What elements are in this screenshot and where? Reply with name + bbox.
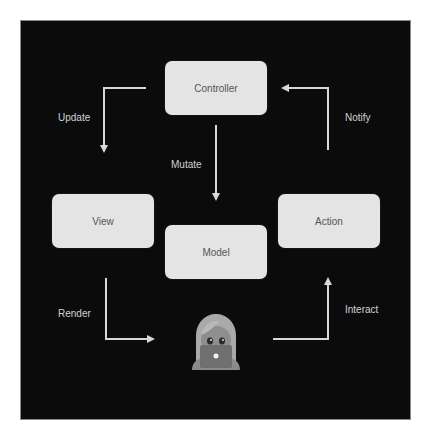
render-arrow [106,278,152,339]
model-node: Model [165,225,267,279]
action-node: Action [278,194,380,248]
update-label: Update [58,113,90,123]
notify-label: Notify [345,113,371,123]
notify-arrow [284,88,328,150]
woman-with-laptop-icon [190,312,242,370]
interact-arrow [273,280,328,339]
render-label: Render [58,309,91,319]
interact-label: Interact [345,305,378,315]
view-node: View [52,194,154,248]
controller-node: Controller [165,61,267,115]
mutate-label: Mutate [171,160,202,170]
update-arrow [104,88,146,150]
